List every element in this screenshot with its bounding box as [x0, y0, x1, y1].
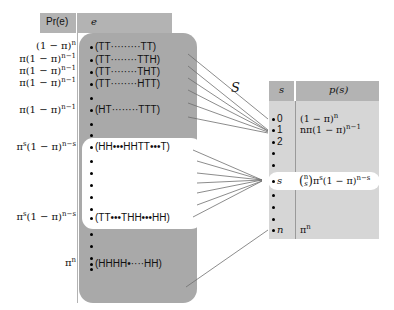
header-s-label: s — [279, 84, 284, 95]
bullet-icon — [272, 229, 275, 232]
bullet-icon — [272, 129, 275, 132]
s-row: n — [272, 224, 283, 235]
bullet-icon — [272, 218, 275, 221]
bullet-icon — [272, 194, 275, 197]
s-row — [272, 189, 277, 200]
bullet-icon — [272, 180, 275, 183]
bullet-icon — [272, 206, 275, 209]
ps-value-binomial: (ns)πs(1 − π)n−s — [299, 174, 370, 188]
s-row — [272, 147, 277, 158]
ps-value: nπ(1 − π)n−1 — [300, 124, 361, 135]
ps-value: (1 − π)n — [300, 113, 338, 124]
s-row: 0 — [272, 113, 283, 124]
right-column-divider — [295, 101, 296, 239]
ps-value: πn — [300, 224, 311, 235]
bullet-icon — [272, 141, 275, 144]
header-ps-label: p(s) — [329, 84, 348, 95]
s-row: s — [272, 175, 282, 186]
s-row — [272, 213, 277, 224]
mapping-label-S: S — [231, 80, 240, 95]
bullet-icon — [272, 152, 275, 155]
bullet-icon — [272, 164, 275, 167]
s-row — [272, 159, 277, 170]
s-row: 1 — [272, 124, 283, 135]
bullet-icon — [272, 118, 275, 121]
s-row: 2 — [272, 136, 283, 147]
s-row — [272, 201, 277, 212]
